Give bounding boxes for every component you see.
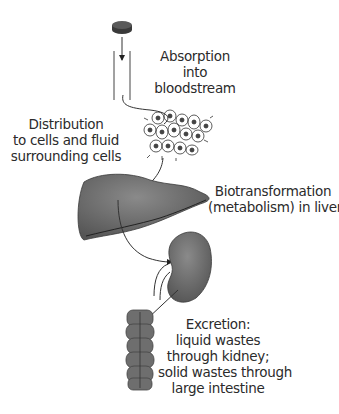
- label-biotransformation: Biotransformation (metabolism) in liver: [208, 183, 338, 215]
- kidney-icon: [154, 232, 211, 302]
- intestine-icon: [126, 310, 154, 390]
- arrow-to-cells: [123, 95, 168, 124]
- cells-icon: [144, 110, 213, 161]
- pill-icon: [112, 21, 132, 34]
- liver-icon: [78, 174, 209, 240]
- label-distribution: Distribution to cells and fluid surround…: [10, 116, 122, 164]
- label-absorption: Absorption into bloodstream: [140, 48, 250, 96]
- label-excretion: Excretion: liquid wastes through kidney;…: [158, 316, 278, 396]
